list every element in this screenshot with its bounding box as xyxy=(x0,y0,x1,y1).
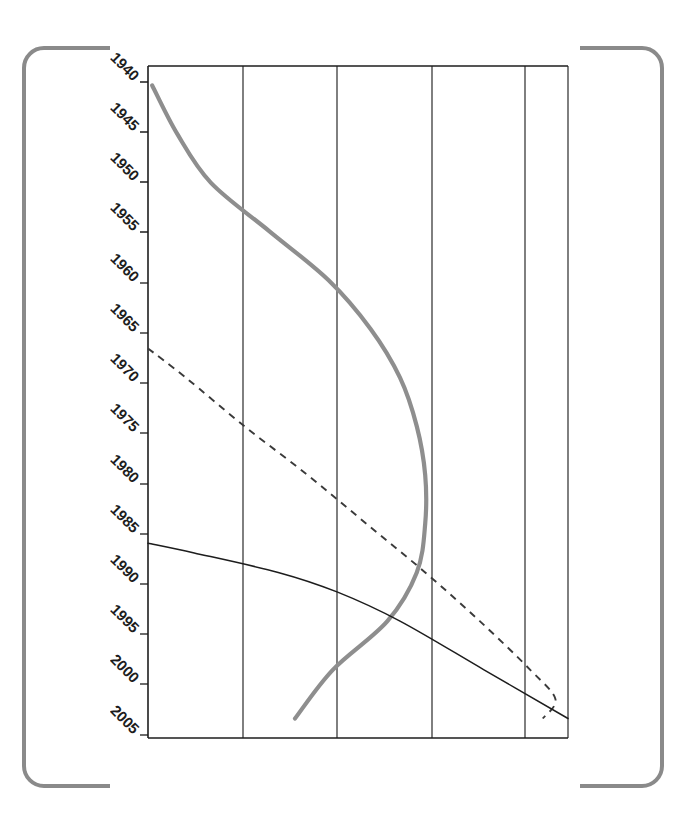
chart-container: 1940 1945 1950 1955 1960 1965 1970 1975 … xyxy=(110,38,580,798)
line-chart: 1940 1945 1950 1955 1960 1965 1970 1975 … xyxy=(110,38,580,798)
